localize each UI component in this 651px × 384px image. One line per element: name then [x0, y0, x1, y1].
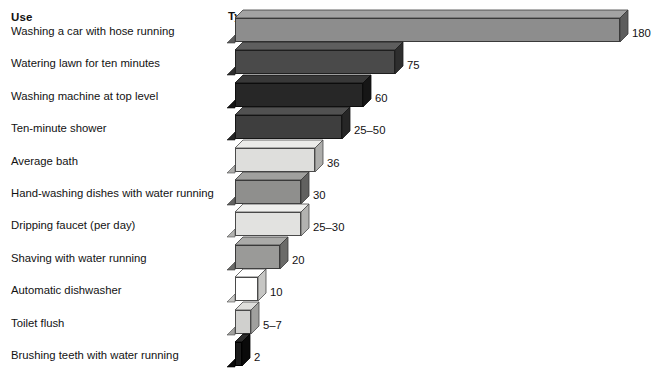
bar-front-face [235, 245, 280, 269]
bar-category-label: Watering lawn for ten minutes [11, 50, 160, 76]
bar-front-face [235, 50, 395, 74]
bar-value-label: 25–50 [354, 118, 385, 142]
bar-value-label: 25–30 [313, 215, 344, 239]
bar-category-label: Ten-minute shower [11, 115, 106, 141]
bar-category-label: Washing a car with hose running [11, 18, 174, 44]
bar-category-label: Hand-washing dishes with water running [11, 180, 214, 206]
bar-side-face [280, 237, 289, 269]
bar-top-face [235, 204, 309, 212]
bar-top-face [235, 172, 309, 180]
bar-value-label: 36 [327, 151, 340, 175]
bar-front-face [235, 342, 242, 366]
bar-front-face [235, 148, 315, 172]
bar-value-label: 180 [632, 21, 651, 45]
bar-front-face [235, 83, 363, 107]
bar-side-face [301, 172, 310, 204]
bar-value-label: 10 [270, 280, 283, 304]
bar-value-label: 5–7 [263, 313, 282, 337]
bar-category-label: Toilet flush [11, 310, 64, 336]
bar-top-face [235, 42, 403, 50]
bar-value-label: 30 [313, 183, 326, 207]
bar-value-label: 60 [375, 86, 388, 110]
bar-front-face [235, 115, 342, 139]
bar-value-label: 75 [407, 53, 420, 77]
bar-category-label: Automatic dishwasher [11, 277, 122, 303]
bar-front-face [235, 310, 251, 334]
bar-top-face [235, 75, 371, 83]
bar-value-label: 20 [292, 248, 305, 272]
bar-side-face [258, 269, 267, 301]
bar-row: Dripping faucet (per day)25–30 [0, 212, 650, 246]
bar-top-face [235, 10, 628, 18]
bar-row: Shaving with water running20 [0, 245, 650, 279]
bar-side-face [620, 10, 629, 42]
bar-front-face [235, 212, 301, 236]
bar-category-label: Shaving with water running [11, 245, 147, 271]
bar-front-face [235, 18, 620, 42]
bar-side-face [315, 140, 324, 172]
bar-row: Ten-minute shower25–50 [0, 115, 650, 149]
bar-category-label: Washing machine at top level [11, 83, 158, 109]
bar-side-face [242, 334, 251, 366]
bar-top-face [235, 140, 323, 148]
bar-row: Toilet flush5–7 [0, 310, 650, 344]
bar-row: Brushing teeth with water running2 [0, 342, 650, 376]
bar-side-face [395, 42, 404, 74]
bar-front-face [235, 180, 301, 204]
bar-category-label: Dripping faucet (per day) [11, 212, 135, 238]
bar-category-label: Average bath [11, 148, 78, 174]
bar-side-face [301, 204, 310, 236]
bar-side-face [363, 75, 372, 107]
bar-category-label: Brushing teeth with water running [11, 342, 179, 368]
bar-row: Average bath36 [0, 148, 650, 182]
bar-value-label: 2 [254, 345, 260, 369]
bar-side-face [342, 107, 351, 139]
bar-row: Hand-washing dishes with water running30 [0, 180, 650, 214]
bar-row: Automatic dishwasher10 [0, 277, 650, 311]
bar-front-face [235, 277, 258, 301]
bar-side-face [251, 302, 260, 334]
bar-top-face [235, 107, 350, 115]
